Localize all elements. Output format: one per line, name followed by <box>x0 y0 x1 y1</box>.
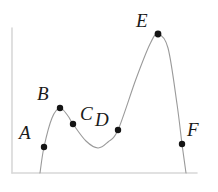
data-point-f <box>179 141 185 147</box>
point-label-f: F <box>187 120 199 139</box>
point-label-a: A <box>19 123 31 142</box>
point-label-c: C <box>80 104 93 123</box>
plot-canvas <box>0 0 218 192</box>
data-curve <box>40 34 186 173</box>
point-label-d: D <box>95 110 109 129</box>
data-point-c <box>70 121 76 127</box>
data-point-e <box>155 31 162 38</box>
point-label-b: B <box>37 84 49 103</box>
point-label-e: E <box>136 11 148 30</box>
data-point-a <box>41 144 47 150</box>
data-points-group <box>41 31 185 151</box>
data-point-b <box>57 105 63 111</box>
data-point-d <box>115 127 121 133</box>
curve-figure: ABCDEF <box>0 0 218 192</box>
